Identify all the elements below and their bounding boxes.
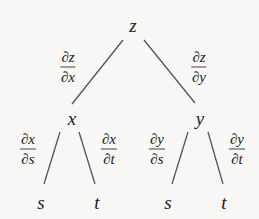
node-y-t: t — [221, 193, 226, 212]
node-z: z — [129, 16, 136, 35]
label-denominator: ∂s — [21, 150, 34, 167]
label-numerator: ∂x — [20, 132, 36, 150]
label-numerator: ∂z — [60, 50, 75, 68]
label-numerator: ∂y — [149, 132, 165, 150]
label-dy-ds: ∂y ∂s — [149, 132, 165, 167]
label-dy-dt: ∂y ∂t — [229, 132, 245, 167]
label-dx-ds: ∂x ∂s — [20, 132, 36, 167]
edge-y-s — [172, 132, 188, 184]
edge-z-y — [144, 40, 195, 103]
label-denominator: ∂t — [103, 150, 115, 167]
label-denominator: ∂y — [192, 68, 206, 85]
label-numerator: ∂z — [191, 50, 206, 68]
node-y: y — [196, 109, 204, 128]
node-x-t: t — [94, 193, 99, 212]
label-denominator: ∂s — [150, 150, 163, 167]
label-dz-dy: ∂z ∂y — [191, 50, 206, 85]
node-x: x — [68, 109, 76, 128]
edge-y-t — [208, 132, 223, 184]
edge-x-t — [79, 132, 95, 184]
label-denominator: ∂x — [61, 68, 75, 85]
label-numerator: ∂x — [101, 132, 117, 150]
node-x-s: s — [37, 193, 44, 212]
edge-x-s — [44, 132, 60, 184]
label-denominator: ∂t — [231, 150, 243, 167]
label-numerator: ∂y — [229, 132, 245, 150]
label-dx-dt: ∂x ∂t — [101, 132, 117, 167]
node-y-s: s — [164, 193, 171, 212]
label-dz-dx: ∂z ∂x — [60, 50, 75, 85]
edge-z-x — [72, 40, 123, 104]
